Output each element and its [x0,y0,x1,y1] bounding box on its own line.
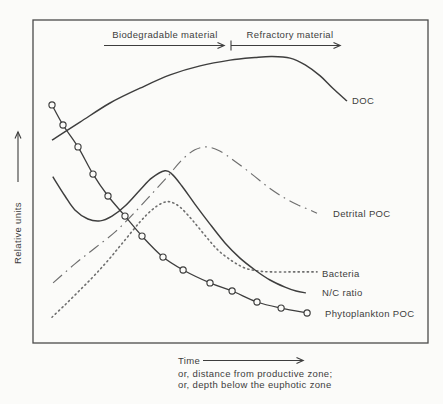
zone-annotations: Biodegradable material Refractory materi… [104,29,340,51]
plot-border [33,20,428,343]
nc-ratio-label: N/C ratio [322,287,363,298]
phytoplankton-poc-marker [49,102,55,108]
phytoplankton-poc-marker [207,280,213,286]
refractory-zone-label: Refractory material [247,29,334,40]
phytoplankton-poc-marker [229,288,235,294]
figure-container: Biodegradable material Refractory materi… [0,0,443,404]
phytoplankton-poc-marker [160,254,166,260]
doc-label: DOC [352,95,374,106]
phytoplankton-poc-curve [52,105,307,313]
phytoplankton-poc-marker [90,171,96,177]
detrital-poc-curve [53,147,317,283]
y-axis-group: Relative units [12,132,23,264]
curves-layer [49,56,347,317]
biodegradable-zone-label: Biodegradable material [112,29,217,40]
nc-ratio-curve [53,171,306,293]
doc-curve [52,56,347,140]
bacteria-label: Bacteria [322,268,360,279]
x-axis-title: Time [178,355,200,366]
phytoplankton-poc-marker [254,299,260,305]
chart-canvas: Biodegradable material Refractory materi… [0,0,443,404]
phytoplankton-poc-marker [139,233,145,239]
bacteria-curve [52,202,317,318]
x-axis-alt1: or, distance from productive zone; [178,368,332,379]
phytoplankton-poc-marker [278,305,284,311]
y-axis-label: Relative units [12,202,23,264]
phytoplankton-poc-marker [60,122,66,128]
phytoplankton-poc-marker [75,144,81,150]
x-axis-alt2: or, depth below the euphotic zone [178,379,332,390]
detrital-poc-label: Detrital POC [333,208,391,219]
phytoplankton-poc-marker [122,213,128,219]
x-axis-group: Time or, distance from productive zone; … [178,355,332,390]
phytoplankton-poc-marker [180,267,186,273]
phytoplankton-poc-marker [105,193,111,199]
phytoplankton-poc-marker [304,310,310,316]
phytoplankton-poc-label: Phytoplankton POC [325,308,414,319]
series-labels: DOC Detrital POC Bacteria N/C ratio Phyt… [322,95,414,319]
